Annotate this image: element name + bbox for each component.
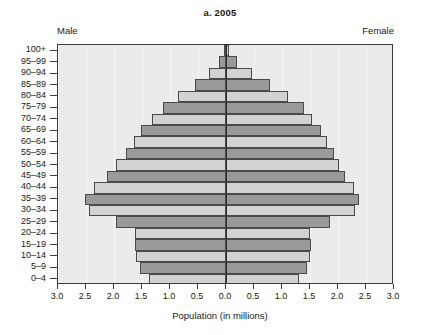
bar-female (226, 56, 237, 67)
bar-female (226, 171, 345, 182)
bar-female (226, 239, 311, 250)
x-axis-tick (309, 284, 310, 289)
x-axis-title: Population (in millions) (0, 310, 440, 321)
y-axis-tick (50, 141, 57, 142)
x-axis-tick (393, 284, 394, 289)
female-side-label: Female (362, 25, 394, 36)
y-axis-label: 25–29 (21, 217, 46, 226)
bar-female (226, 216, 330, 227)
x-axis-label: 0.0 (210, 291, 240, 301)
bar-male (219, 56, 226, 67)
y-axis-label: 75–79 (21, 102, 46, 111)
y-axis-tick (50, 267, 57, 268)
bar-female (226, 91, 288, 102)
x-axis-label: 0.5 (182, 291, 212, 301)
bar-male (163, 102, 226, 113)
y-axis-tick (50, 244, 57, 245)
y-axis-label: 40–44 (21, 182, 46, 191)
bar-female (226, 79, 270, 90)
bar-female (226, 205, 355, 216)
x-axis-label: 1.5 (294, 291, 324, 301)
bar-female (226, 159, 339, 170)
male-side-label: Male (57, 25, 78, 36)
y-axis-label: 55–59 (21, 148, 46, 157)
chart-title: a. 2005 (0, 7, 440, 18)
x-axis-tick (113, 284, 114, 289)
bar-male (135, 228, 226, 239)
x-axis-label: 2.5 (70, 291, 100, 301)
x-axis-label: 3.0 (378, 291, 408, 301)
y-axis-label: 50–54 (21, 160, 46, 169)
pyramid-row (58, 182, 392, 193)
y-axis-tick (50, 221, 57, 222)
pyramid-row (58, 68, 392, 79)
x-axis-tick (197, 284, 198, 289)
y-axis-tick (50, 210, 57, 211)
x-axis-tick (169, 284, 170, 289)
bar-male (107, 171, 226, 182)
pyramid-row (58, 45, 392, 56)
pyramid-row (58, 91, 392, 102)
y-axis-label: 45–49 (21, 171, 46, 180)
y-axis-tick (50, 198, 57, 199)
bar-male (141, 125, 226, 136)
bar-male (126, 148, 226, 159)
bar-female (226, 194, 359, 205)
x-axis-label: 2.5 (350, 291, 380, 301)
bar-male (94, 182, 226, 193)
y-axis-label: 0–4 (31, 274, 46, 283)
bar-female (226, 102, 304, 113)
pyramid-row (58, 262, 392, 273)
pyramid-row (58, 274, 392, 284)
x-axis-label: 0.5 (238, 291, 268, 301)
x-axis-tick (225, 284, 226, 289)
x-axis-tick (281, 284, 282, 289)
y-axis-tick (50, 255, 57, 256)
bar-female (226, 251, 310, 262)
pyramid-row (58, 102, 392, 113)
bar-female (226, 228, 310, 239)
bar-male (136, 251, 226, 262)
y-axis-tick (50, 175, 57, 176)
bar-male (134, 136, 226, 147)
y-axis-tick (50, 118, 57, 119)
pyramid-row (58, 239, 392, 250)
pyramid-row (58, 194, 392, 205)
y-axis-label: 5–9 (31, 262, 46, 271)
bar-male (178, 91, 226, 102)
bar-male (149, 274, 226, 284)
bar-male (152, 114, 226, 125)
y-axis-tick (50, 61, 57, 62)
pyramid-row (58, 251, 392, 262)
y-axis-tick (50, 95, 57, 96)
bar-male (85, 194, 226, 205)
y-axis-tick (50, 130, 57, 131)
x-axis-tick (337, 284, 338, 289)
bar-male (195, 79, 226, 90)
pyramid-row (58, 171, 392, 182)
x-axis-tick (141, 284, 142, 289)
zero-axis-line (226, 45, 227, 283)
bar-female (226, 262, 307, 273)
bar-male (116, 216, 226, 227)
x-axis-tick (85, 284, 86, 289)
bar-female (226, 182, 354, 193)
y-axis-label: 90–94 (21, 68, 46, 77)
bar-female (226, 148, 334, 159)
y-axis-tick (50, 164, 57, 165)
y-axis-label: 20–24 (21, 228, 46, 237)
bar-female (226, 136, 327, 147)
x-axis-tick (365, 284, 366, 289)
bar-female (226, 114, 312, 125)
x-axis-tick (253, 284, 254, 289)
y-axis-tick (50, 187, 57, 188)
y-axis-label: 10–14 (21, 251, 46, 260)
y-axis-tick (50, 73, 57, 74)
pyramid-row (58, 56, 392, 67)
y-axis-tick (50, 233, 57, 234)
x-axis-label: 1.0 (154, 291, 184, 301)
pyramid-row (58, 159, 392, 170)
y-axis-label: 70–74 (21, 114, 46, 123)
y-axis-label: 30–34 (21, 205, 46, 214)
y-axis-label: 65–69 (21, 125, 46, 134)
